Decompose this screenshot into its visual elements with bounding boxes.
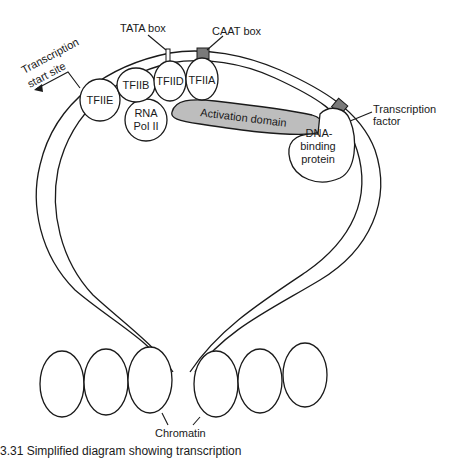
svg-text:Pol II: Pol II bbox=[133, 120, 158, 132]
chromatin bbox=[40, 343, 327, 417]
caat-box-leader bbox=[207, 36, 223, 50]
svg-text:TFIID: TFIID bbox=[156, 75, 184, 87]
caat-box-label: CAAT box bbox=[212, 25, 262, 37]
transcription-factor-label: Transcription bbox=[373, 103, 436, 115]
tfiie: TFIIE bbox=[80, 79, 120, 121]
svg-text:TFIIE: TFIIE bbox=[87, 94, 114, 106]
transcription-factor-label-2: factor bbox=[373, 115, 401, 127]
svg-text:TFIIB: TFIIB bbox=[123, 79, 150, 91]
tfiid: TFIID bbox=[154, 61, 186, 101]
svg-text:RNA: RNA bbox=[134, 107, 158, 119]
nucleosome bbox=[84, 349, 128, 415]
nucleosome bbox=[283, 343, 327, 407]
tata-box-marker bbox=[166, 49, 170, 62]
svg-text:protein: protein bbox=[301, 153, 335, 165]
svg-text:binding: binding bbox=[300, 140, 335, 152]
tfiib: TFIIB bbox=[117, 68, 155, 102]
chromatin-label: Chromatin bbox=[155, 427, 206, 439]
nucleosome bbox=[40, 351, 84, 417]
svg-text:TFIIA: TFIIA bbox=[189, 74, 217, 86]
figure-caption: 3.31 Simplified diagram showing transcri… bbox=[0, 444, 241, 458]
nucleosome bbox=[238, 349, 282, 413]
svg-text:DNA-: DNA- bbox=[306, 127, 333, 139]
tata-box-label: TATA box bbox=[120, 22, 166, 34]
chromatin-leader-right bbox=[193, 417, 200, 425]
tfiia: TFIIA bbox=[186, 58, 218, 100]
rna-pol-ii: RNA Pol II bbox=[125, 99, 167, 141]
nucleosome bbox=[194, 351, 238, 417]
activation-domain: Activation domain bbox=[172, 100, 323, 135]
tata-box-leader bbox=[148, 35, 166, 50]
nucleosome bbox=[128, 347, 172, 413]
chromatin-leader-left bbox=[162, 413, 168, 425]
